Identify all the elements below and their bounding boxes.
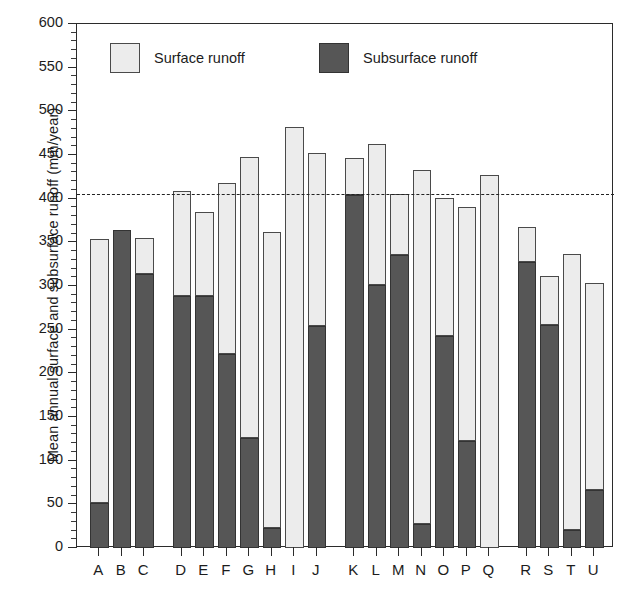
bar-segment-surface-E — [195, 212, 214, 297]
reference-line — [77, 194, 614, 195]
bar-Q — [480, 175, 499, 548]
bar-I — [285, 127, 304, 548]
bar-segment-subsurface-J — [308, 326, 327, 548]
y-tick-label-150: 150 — [3, 408, 63, 423]
y-tick-label-500: 500 — [3, 102, 63, 117]
x-tick-C — [143, 547, 144, 556]
bar-segment-surface-M — [390, 194, 409, 255]
bar-segment-subsurface-S — [540, 325, 559, 548]
chart-figure: Mean annual surface and subsurface runof… — [0, 0, 635, 610]
bar-segment-surface-O — [435, 198, 454, 336]
bar-G — [240, 157, 259, 548]
bar-segment-subsurface-R — [518, 262, 537, 548]
bar-A — [90, 239, 109, 548]
legend-item-surface-runoff: Surface runoff — [110, 43, 245, 73]
bar-segment-surface-T — [563, 254, 582, 530]
x-tick-label-U: U — [578, 561, 608, 578]
bar-segment-subsurface-E — [195, 296, 214, 548]
x-tick-M — [398, 547, 399, 556]
legend-swatch-subsurface-icon — [319, 43, 349, 73]
bar-U — [585, 283, 604, 548]
y-tick-label-50: 50 — [3, 495, 63, 510]
bar-segment-surface-J — [308, 153, 327, 326]
bar-segment-subsurface-U — [585, 490, 604, 548]
x-tick-P — [466, 547, 467, 556]
bar-segment-surface-C — [135, 238, 154, 274]
bar-E — [195, 212, 214, 548]
legend-swatch-surface-icon — [110, 43, 140, 73]
bar-O — [435, 198, 454, 548]
bar-segment-subsurface-D — [173, 296, 192, 548]
bar-J — [308, 153, 327, 548]
bar-segment-surface-H — [263, 232, 282, 528]
y-tick-label-100: 100 — [3, 452, 63, 467]
bar-segment-subsurface-C — [135, 274, 154, 548]
x-tick-E — [203, 547, 204, 556]
bar-segment-subsurface-F — [218, 354, 237, 548]
legend-item-subsurface-runoff: Subsurface runoff — [319, 43, 477, 73]
x-tick-label-C: C — [128, 561, 158, 578]
bar-N — [413, 170, 432, 548]
y-tick-label-600: 600 — [3, 15, 63, 30]
bar-C — [135, 238, 154, 548]
y-tick-label-200: 200 — [3, 364, 63, 379]
x-tick-Q — [488, 547, 489, 556]
y-tick-label-350: 350 — [3, 233, 63, 248]
bar-P — [458, 207, 477, 548]
x-tick-O — [443, 547, 444, 556]
bar-M — [390, 194, 409, 548]
bar-segment-subsurface-L — [368, 285, 387, 548]
bar-segment-surface-L — [368, 144, 387, 285]
x-tick-label-Q: Q — [473, 561, 503, 578]
bar-segment-surface-F — [218, 183, 237, 354]
bar-segment-surface-S — [540, 276, 559, 325]
bar-K — [345, 158, 364, 548]
y-tick-label-400: 400 — [3, 190, 63, 205]
plot-area: Surface runoff Subsurface runoff — [76, 23, 613, 547]
bar-B — [113, 230, 132, 548]
bar-segment-surface-I — [285, 127, 304, 548]
bar-segment-surface-A — [90, 239, 109, 503]
bar-segment-subsurface-M — [390, 255, 409, 548]
y-tick-0 — [68, 547, 77, 548]
x-tick-L — [376, 547, 377, 556]
bar-segment-subsurface-T — [563, 530, 582, 548]
x-tick-H — [271, 547, 272, 556]
bar-segment-subsurface-H — [263, 528, 282, 548]
y-tick-label-250: 250 — [3, 321, 63, 336]
x-tick-J — [316, 547, 317, 556]
legend-label-surface-runoff: Surface runoff — [154, 50, 245, 66]
y-tick-label-450: 450 — [3, 146, 63, 161]
x-tick-B — [121, 547, 122, 556]
legend-label-subsurface-runoff: Subsurface runoff — [363, 50, 477, 66]
bar-segment-surface-P — [458, 207, 477, 441]
bar-segment-subsurface-P — [458, 441, 477, 548]
bar-F — [218, 183, 237, 548]
bar-segment-surface-Q — [480, 175, 499, 548]
bar-segment-surface-N — [413, 170, 432, 524]
bar-segment-subsurface-B — [113, 230, 132, 548]
y-tick-label-300: 300 — [3, 277, 63, 292]
x-tick-F — [226, 547, 227, 556]
bar-segment-subsurface-N — [413, 524, 432, 548]
bar-segment-surface-D — [173, 191, 192, 296]
x-tick-S — [548, 547, 549, 556]
x-tick-D — [181, 547, 182, 556]
bar-H — [263, 232, 282, 548]
bar-segment-surface-K — [345, 158, 364, 195]
bar-segment-subsurface-O — [435, 336, 454, 548]
x-tick-N — [421, 547, 422, 556]
y-tick-label-550: 550 — [3, 59, 63, 74]
x-tick-label-J: J — [301, 561, 331, 578]
bar-segment-surface-U — [585, 283, 604, 491]
x-tick-I — [293, 547, 294, 556]
y-tick-label-0: 0 — [3, 539, 63, 554]
x-tick-G — [248, 547, 249, 556]
bar-segment-surface-G — [240, 157, 259, 438]
x-tick-T — [571, 547, 572, 556]
bar-segment-subsurface-G — [240, 438, 259, 548]
x-tick-U — [593, 547, 594, 556]
bar-T — [563, 254, 582, 548]
x-tick-R — [526, 547, 527, 556]
bar-L — [368, 144, 387, 548]
